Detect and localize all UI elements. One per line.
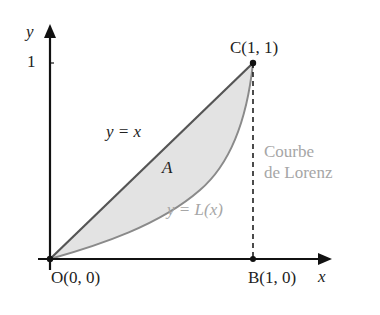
y-tick-label: 1	[27, 52, 36, 71]
point-c-label: C(1, 1)	[230, 38, 278, 57]
curve-name-line2: de Lorenz	[264, 163, 333, 182]
point-origin	[47, 256, 53, 262]
equality-line-label: y = x	[104, 122, 142, 141]
lorenz-curve-label: y = L(x)	[165, 200, 223, 219]
curve-name-line1: Courbe	[264, 142, 314, 161]
point-b-label: B(1, 0)	[248, 268, 296, 287]
point-b	[250, 256, 256, 262]
x-axis-arrow-icon	[318, 253, 332, 265]
x-axis-label: x	[317, 267, 326, 286]
y-axis-label: y	[24, 22, 34, 41]
point-origin-label: O(0, 0)	[51, 268, 100, 287]
y-axis-arrow-icon	[44, 24, 56, 38]
area-label: A	[161, 158, 173, 177]
lorenz-diagram: y 1 C(1, 1) O(0, 0) B(1, 0) x y = x A y …	[0, 0, 380, 315]
point-c	[250, 60, 256, 66]
